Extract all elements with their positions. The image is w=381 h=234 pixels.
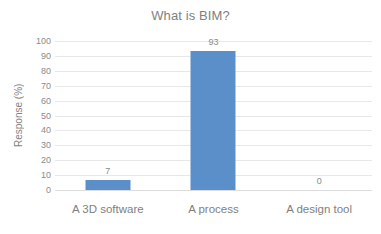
y-axis-title: Response (%)	[12, 60, 26, 170]
bar-value-label: 7	[105, 167, 110, 176]
bars-layer: 7930	[55, 41, 372, 190]
bar[interactable]	[85, 180, 130, 190]
bar-group: 93	[161, 41, 267, 190]
bar-group: 0	[266, 41, 372, 190]
bar-value-label: 0	[317, 177, 322, 186]
x-axis-category-label: A design tool	[266, 203, 372, 215]
y-axis-tick-label: 50	[27, 112, 51, 121]
y-axis-tick-label: 100	[27, 37, 51, 46]
x-axis-category-label: A 3D software	[55, 203, 161, 215]
y-axis-tick-label: 10	[27, 171, 51, 180]
y-axis-tick-label: 70	[27, 82, 51, 91]
bar-value-label: 93	[208, 38, 218, 47]
bar[interactable]	[191, 51, 236, 190]
x-axis-category-label: A process	[161, 203, 267, 215]
y-axis-tick-label: 80	[27, 67, 51, 76]
bar-chart: What is BIM? Response (%) 10090807060504…	[0, 0, 381, 234]
y-axis-tick-label: 0	[27, 186, 51, 195]
y-axis-tick-labels: 1009080706050403020100	[26, 41, 51, 190]
y-axis-tick-label: 40	[27, 126, 51, 135]
y-axis-tick-label: 60	[27, 97, 51, 106]
y-axis-tick-label: 90	[27, 52, 51, 61]
y-axis-tick-label: 30	[27, 141, 51, 150]
axis-baseline	[55, 190, 372, 191]
bar-group: 7	[55, 41, 161, 190]
chart-title: What is BIM?	[0, 8, 381, 23]
y-axis-tick-label: 20	[27, 156, 51, 165]
x-axis-category-labels: A 3D softwareA processA design tool	[55, 203, 372, 223]
